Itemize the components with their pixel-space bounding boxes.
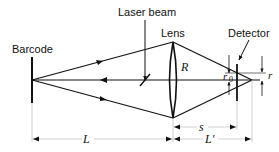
s-label: s xyxy=(199,120,204,134)
Lprime-label: L′ xyxy=(204,132,215,146)
detector-pointer-arrow xyxy=(239,40,249,60)
lens-label: Lens xyxy=(161,27,185,39)
Lprime-left-arrow-icon xyxy=(174,137,180,142)
L-left-arrow-icon xyxy=(33,137,39,142)
lens-radius-label: R xyxy=(180,60,189,74)
laser-beam-label: Laser beam xyxy=(118,6,176,18)
lower-converging-ray xyxy=(173,80,252,118)
Lprime-right-arrow-icon xyxy=(245,137,251,142)
r0-subscript: 0 xyxy=(229,75,233,84)
barcode-scanner-optics-diagram: Laser beam Barcode Lens Detector R r 0 r… xyxy=(0,0,279,152)
r-label: r xyxy=(268,69,273,81)
barcode-label: Barcode xyxy=(12,43,53,55)
s-left-arrow-icon xyxy=(174,125,180,130)
axis-arrow-icon xyxy=(100,77,107,83)
s-right-arrow-icon xyxy=(230,125,236,130)
L-right-arrow-icon xyxy=(166,137,172,142)
detector-label: Detector xyxy=(228,27,270,39)
r0-label: r xyxy=(223,70,228,82)
L-label: L xyxy=(82,132,90,146)
